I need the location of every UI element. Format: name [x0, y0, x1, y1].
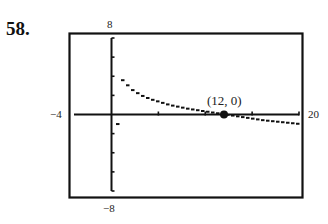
ymin-label: −8 — [103, 202, 115, 214]
axes — [74, 38, 299, 191]
intercept-point — [220, 111, 228, 119]
xmax-label: 20 — [308, 108, 320, 120]
point-label: (12, 0) — [207, 93, 242, 108]
xmin-label: −4 — [50, 108, 62, 120]
ymax-label: 8 — [107, 18, 113, 30]
calculator-graph: (12, 0) 8 −8 −4 20 — [0, 0, 328, 224]
